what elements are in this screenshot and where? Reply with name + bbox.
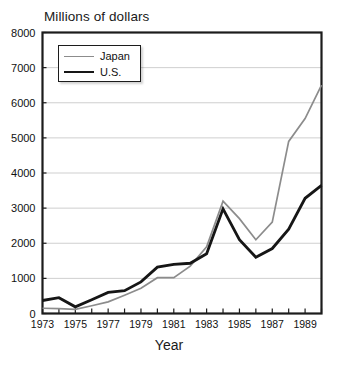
y-axis-tick-label: 3000 [11,202,35,214]
legend-swatch-us-icon [64,71,94,73]
x-axis-tick-label: 1977 [96,318,120,330]
y-axis-tick-label: 4000 [11,167,35,179]
y-axis-tick-label: 2000 [11,237,35,249]
series-line-japan [43,85,322,309]
x-axis-title: Year [0,337,338,353]
legend-label-us: U.S. [100,66,121,78]
x-axis-tick-label: 1979 [129,318,153,330]
x-axis-tick-label: 1989 [293,318,317,330]
x-axis-tick-label: 1981 [162,318,186,330]
legend-swatch-japan-icon [64,56,94,57]
y-axis-tick-label: 6000 [11,97,35,109]
legend-item-us: U.S. [64,64,121,80]
y-axis-tick-label: 8000 [11,27,35,39]
y-axis-tick-label: 5000 [11,132,35,144]
x-axis-tick-label: 1987 [261,318,285,330]
x-axis-tick-label: 1975 [64,318,88,330]
x-axis-tick-label: 1985 [228,318,252,330]
x-axis-tick-label: 1973 [31,318,55,330]
chart-page: Millions of dollars 01000200030004000500… [0,0,338,365]
legend-item-japan: Japan [64,48,130,64]
line-chart-plot: 0100020003000400050006000700080001973197… [0,0,338,365]
y-axis-tick-label: 1000 [11,272,35,284]
series-line-us [43,185,322,307]
x-axis-tick-label: 1983 [195,318,219,330]
legend-label-japan: Japan [100,50,130,62]
y-axis-tick-label: 7000 [11,62,35,74]
chart-legend: Japan U.S. [58,45,141,82]
